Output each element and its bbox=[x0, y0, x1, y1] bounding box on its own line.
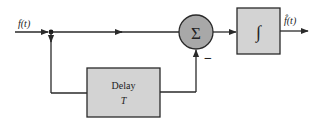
delay-block bbox=[87, 68, 160, 117]
sum-symbol: Σ bbox=[191, 24, 201, 43]
sum-minus-sign: − bbox=[204, 51, 212, 66]
input-label: f(t) bbox=[18, 18, 31, 30]
output-label: f̂(t) bbox=[284, 14, 297, 27]
delay-block-title: Delay bbox=[112, 80, 136, 91]
block-diagram: Delay T Σ − ∫ f(t) f̂(t) bbox=[0, 0, 321, 126]
